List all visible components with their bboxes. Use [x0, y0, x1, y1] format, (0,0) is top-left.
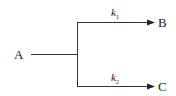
reaction-scheme — [0, 0, 176, 96]
rate-constant-k2: k2 — [111, 72, 119, 85]
node-a: A — [14, 48, 23, 61]
arrowhead-c-icon — [147, 84, 155, 90]
rate-constant-k1: k1 — [111, 7, 119, 20]
node-c: C — [158, 80, 167, 93]
arrowhead-b-icon — [147, 20, 155, 26]
node-b: B — [158, 16, 167, 29]
